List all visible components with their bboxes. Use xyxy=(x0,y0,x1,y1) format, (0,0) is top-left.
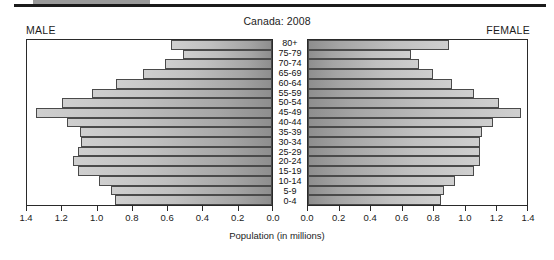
male-bar-0-4[interactable] xyxy=(115,195,273,205)
bar-row xyxy=(308,137,527,147)
age-group-label: 5-9 xyxy=(273,186,307,196)
bar-row xyxy=(27,59,272,69)
axis-tick-label: 0.2 xyxy=(332,212,345,223)
male-bar-80plus[interactable] xyxy=(171,40,273,50)
bar-row xyxy=(308,147,527,157)
bar-row xyxy=(27,147,272,157)
bar-row xyxy=(27,98,272,108)
bar-row xyxy=(27,118,272,128)
bar-row xyxy=(27,79,272,89)
female-plot-panel xyxy=(307,39,528,206)
male-x-axis: 1.41.21.00.80.60.40.20.0 xyxy=(26,206,273,228)
axis-tick-label: 0.6 xyxy=(395,212,408,223)
axis-tick-label: 0.4 xyxy=(364,212,377,223)
age-group-label: 35-39 xyxy=(273,127,307,137)
axis-tick xyxy=(26,206,27,211)
bar-row xyxy=(27,156,272,166)
bar-row xyxy=(308,40,527,50)
female-bar-80plus[interactable] xyxy=(308,40,449,50)
female-bar-45-49[interactable] xyxy=(308,108,521,118)
male-bar-10-14[interactable] xyxy=(99,176,272,186)
male-plot-panel xyxy=(26,39,273,206)
bar-row xyxy=(308,108,527,118)
bar-row xyxy=(308,50,527,60)
female-bar-25-29[interactable] xyxy=(308,147,480,157)
female-panel-label: FEMALE xyxy=(486,24,530,36)
axis-tick xyxy=(238,206,239,211)
male-bar-60-64[interactable] xyxy=(116,79,272,89)
male-bar-75-79[interactable] xyxy=(183,50,272,60)
bar-row xyxy=(27,89,272,99)
bar-row xyxy=(308,79,527,89)
female-bar-10-14[interactable] xyxy=(308,176,455,186)
male-bar-35-39[interactable] xyxy=(80,127,273,137)
female-bar-55-59[interactable] xyxy=(308,89,474,99)
male-bar-65-69[interactable] xyxy=(143,69,273,79)
axis-tick xyxy=(527,206,528,211)
axis-tick-label: 0.8 xyxy=(125,212,138,223)
age-group-label: 40-44 xyxy=(273,118,307,128)
male-bar-55-59[interactable] xyxy=(92,89,272,99)
bar-row xyxy=(308,98,527,108)
age-group-label: 70-74 xyxy=(273,59,307,69)
female-bar-40-44[interactable] xyxy=(308,118,493,128)
female-bar-35-39[interactable] xyxy=(308,127,482,137)
axis-tick-label: 1.0 xyxy=(458,212,471,223)
male-bar-45-49[interactable] xyxy=(36,108,272,118)
population-pyramid-figure: Canada: 2008 MALE FEMALE 80+75-7970-7465… xyxy=(0,11,554,260)
axis-tick xyxy=(307,206,308,211)
female-bar-75-79[interactable] xyxy=(308,50,411,60)
chart-title: Canada: 2008 xyxy=(0,15,554,27)
axis-tick xyxy=(61,206,62,211)
female-bar-5-9[interactable] xyxy=(308,186,444,196)
male-bar-50-54[interactable] xyxy=(62,98,272,108)
female-bar-0-4[interactable] xyxy=(308,195,441,205)
axis-tick-label: 1.4 xyxy=(521,212,534,223)
axis-tick xyxy=(97,206,98,211)
age-group-label: 10-14 xyxy=(273,177,307,187)
bar-row xyxy=(27,127,272,137)
female-bar-30-34[interactable] xyxy=(308,137,480,147)
bar-row xyxy=(308,118,527,128)
axis-tick-label: 1.4 xyxy=(19,212,32,223)
top-rule-line xyxy=(14,4,546,7)
female-bar-20-24[interactable] xyxy=(308,156,480,166)
female-bar-60-64[interactable] xyxy=(308,79,452,89)
female-bar-15-19[interactable] xyxy=(308,166,474,176)
bar-row xyxy=(308,156,527,166)
axis-tick-label: 0.0 xyxy=(300,212,313,223)
male-bar-15-19[interactable] xyxy=(78,166,272,176)
axis-tick xyxy=(167,206,168,211)
female-bar-65-69[interactable] xyxy=(308,69,433,79)
axis-tick xyxy=(465,206,466,211)
bar-row xyxy=(308,69,527,79)
male-bar-5-9[interactable] xyxy=(111,186,272,196)
axis-tick xyxy=(132,206,133,211)
axis-tick-label: 0.4 xyxy=(196,212,209,223)
bar-row xyxy=(27,50,272,60)
bar-row xyxy=(308,89,527,99)
axis-tick-label: 1.2 xyxy=(490,212,503,223)
bar-row xyxy=(27,195,272,205)
age-group-label: 0-4 xyxy=(273,196,307,206)
male-bar-30-34[interactable] xyxy=(81,137,272,147)
age-group-axis: 80+75-7970-7465-6960-6455-5950-5445-4940… xyxy=(273,39,307,206)
axis-tick-label: 1.2 xyxy=(55,212,68,223)
bar-row xyxy=(27,166,272,176)
axis-tick xyxy=(433,206,434,211)
male-bar-70-74[interactable] xyxy=(165,59,272,69)
bar-row xyxy=(308,176,527,186)
female-bar-70-74[interactable] xyxy=(308,59,419,69)
axis-tick xyxy=(370,206,371,211)
male-bar-40-44[interactable] xyxy=(67,118,272,128)
bar-row xyxy=(27,176,272,186)
male-panel-label: MALE xyxy=(26,24,56,36)
female-bar-50-54[interactable] xyxy=(308,98,499,108)
male-bar-25-29[interactable] xyxy=(78,147,272,157)
male-bar-rows xyxy=(27,40,272,205)
bar-row xyxy=(308,195,527,205)
axis-tick xyxy=(202,206,203,211)
bar-row xyxy=(308,127,527,137)
male-bar-20-24[interactable] xyxy=(73,156,273,166)
female-bar-rows xyxy=(308,40,527,205)
